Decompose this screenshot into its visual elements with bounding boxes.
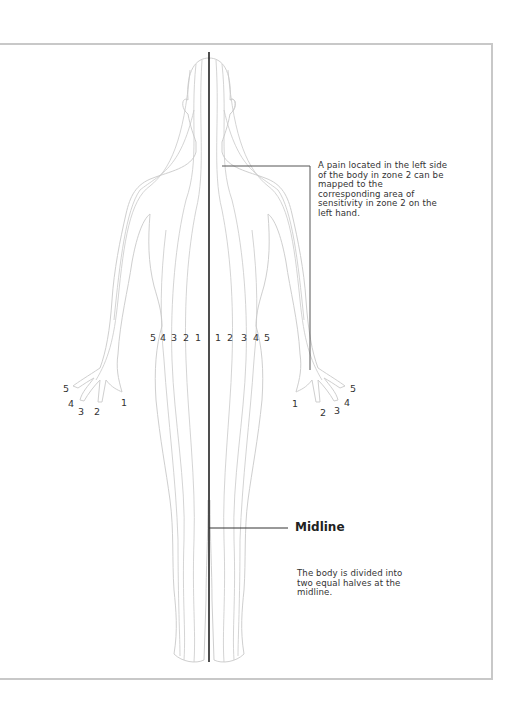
zone-label-right-2: 2 bbox=[183, 333, 189, 343]
zone-label-left-3: 3 bbox=[241, 333, 247, 343]
right-hand-finger-4: 4 bbox=[68, 399, 74, 409]
zone-label-left-2: 2 bbox=[227, 333, 233, 343]
left-hand-finger-5: 5 bbox=[350, 384, 356, 394]
left-hand-finger-4: 4 bbox=[344, 398, 350, 408]
zone-label-right-5: 5 bbox=[150, 333, 156, 343]
right-hand-finger-2: 2 bbox=[94, 407, 100, 417]
zone2-callout-text: A pain located in the left side of the b… bbox=[318, 161, 448, 219]
zone-label-left-1: 1 bbox=[215, 333, 221, 343]
left-hand-finger-3: 3 bbox=[334, 406, 340, 416]
left-hand-finger-2: 2 bbox=[320, 408, 326, 418]
zone-label-left-4: 4 bbox=[253, 333, 259, 343]
midline-note: The body is divided into two equal halve… bbox=[297, 569, 407, 598]
left-hand-finger-1: 1 bbox=[292, 399, 298, 409]
zone-label-left-5: 5 bbox=[264, 333, 270, 343]
right-hand-finger-1: 1 bbox=[121, 398, 127, 408]
right-hand-finger-3: 3 bbox=[78, 407, 84, 417]
right-hand-finger-5: 5 bbox=[63, 384, 69, 394]
body-figure bbox=[0, 0, 525, 716]
midline-label: Midline bbox=[295, 520, 345, 534]
zone-label-right-1: 1 bbox=[195, 333, 201, 343]
zone-label-right-4: 4 bbox=[160, 333, 166, 343]
zone-label-right-3: 3 bbox=[171, 333, 177, 343]
